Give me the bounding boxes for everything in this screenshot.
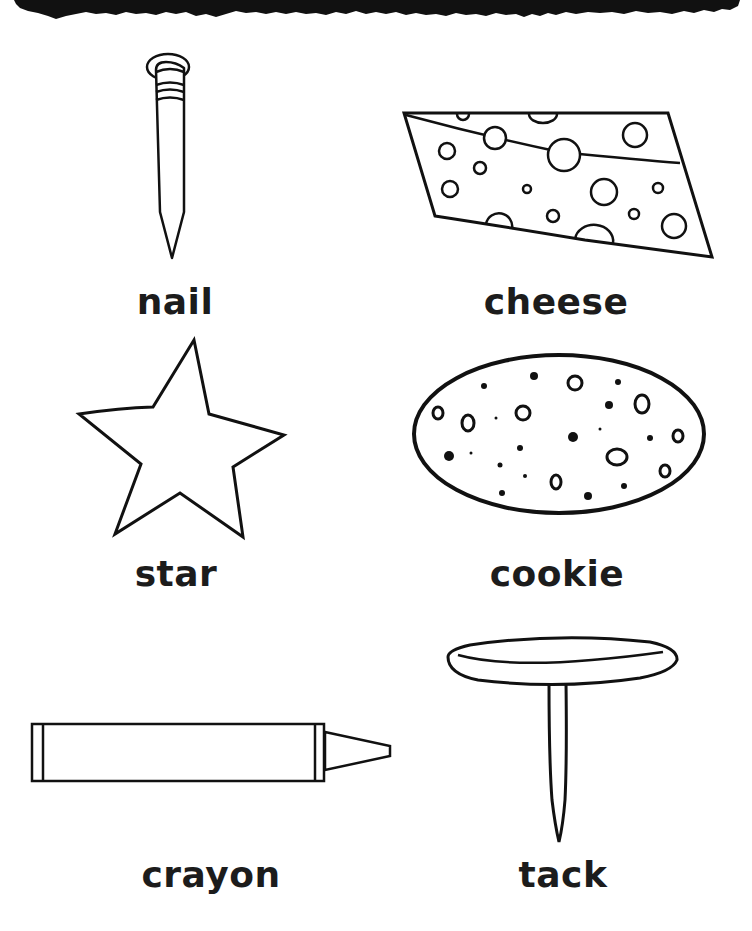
label-tack: tack bbox=[519, 854, 608, 895]
tack-icon bbox=[0, 0, 752, 931]
